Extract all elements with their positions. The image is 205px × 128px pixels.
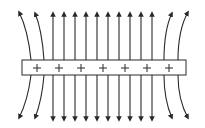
curved-field-line-top-arrow-icon	[19, 12, 31, 60]
curved-field-line-bottom-arrow-icon	[178, 75, 188, 118]
curved-field-line-top-arrow-icon	[164, 13, 172, 60]
curved-field-line-bottom-arrow-icon	[164, 75, 172, 118]
curved-field-line-top-arrow-icon	[35, 13, 44, 60]
electric-field-diagram	[0, 0, 205, 128]
charged-plate	[22, 60, 186, 75]
curved-field-line-top-arrow-icon	[178, 12, 188, 60]
curved-field-line-bottom-arrow-icon	[35, 75, 44, 118]
curved-field-line-bottom-arrow-icon	[19, 75, 31, 118]
